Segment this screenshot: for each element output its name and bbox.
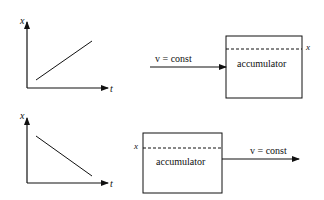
bottom-outflow: v = const [222,145,299,159]
top-graph: x t [19,15,113,94]
top-graph-increasing-line [36,41,92,80]
bottom-accumulator-box: accumulator x [133,133,222,193]
bottom-level-label: x [133,141,138,151]
top-inflow: v = const [150,53,226,67]
top-accumulator-box: accumulator x [226,36,310,98]
top-level-label: x [305,42,310,52]
bottom-graph-decreasing-line [36,136,92,176]
bottom-graph-y-label: x [19,110,25,121]
bottom-accumulator-label: accumulator [156,156,206,167]
inflow-arrow-label: v = const [155,53,192,64]
accumulator-diagram: x t v = const accumulator x x t accumula… [0,0,324,200]
top-graph-y-label: x [19,15,25,26]
top-graph-x-label: t [110,83,113,94]
bottom-graph-x-label: t [110,178,113,189]
top-accumulator-label: accumulator [237,58,287,69]
outflow-arrow-label: v = const [250,145,287,156]
bottom-graph: x t [19,110,113,189]
